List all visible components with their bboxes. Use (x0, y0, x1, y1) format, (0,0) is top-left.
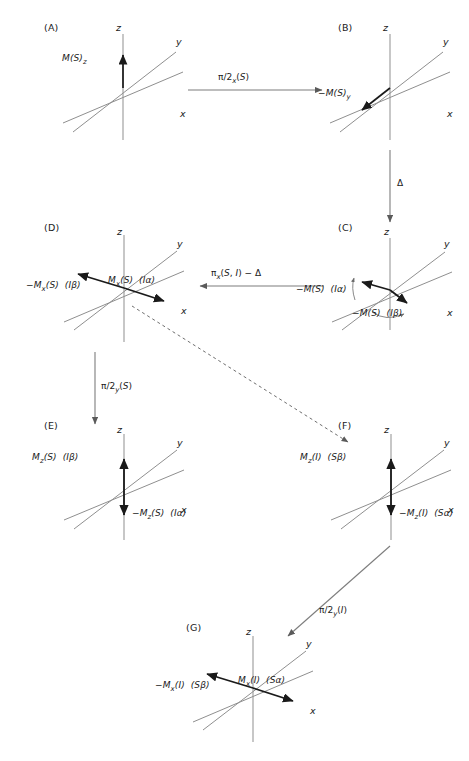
panel-A-axis-x: x (180, 108, 186, 119)
panel-B-axes (330, 34, 450, 140)
panel-label-G: (G) (186, 622, 201, 633)
panel-F-vector-label-beta: Mz(I) (Sβ) (300, 452, 347, 465)
panel-C-axis-x: x (447, 307, 453, 318)
panel-A-axis-z: z (116, 22, 121, 33)
transition-label-f-to-g: π/2y(I) (319, 605, 347, 618)
panel-G-vector-label-alpha: Mx(I) (Sα) (238, 675, 285, 688)
panel-F-vector-label-alpha: −Mz(I) (Sα) (399, 508, 453, 521)
panel-G-axis-y: y (306, 638, 312, 649)
panel-B-vector-label-minusMy: −M(S)y (318, 88, 351, 101)
transition-label-b-to-c: Δ (397, 178, 403, 188)
panel-F-axis-z: z (384, 424, 389, 435)
panel-label-A: (A) (44, 22, 59, 33)
transition-label-d-to-e: π/2y(S) (101, 381, 132, 394)
panel-B-axis-y: y (443, 36, 449, 47)
panel-F-axis-y: y (444, 437, 450, 448)
panel-D-axis-x: x (181, 305, 187, 316)
panel-D-vector-label-beta: −Mx(S) (Iβ) (26, 280, 81, 293)
panel-A-vector-label-Mz: M(S)z (62, 53, 87, 66)
panel-label-E: (E) (44, 420, 58, 431)
panel-label-F: (F) (338, 420, 351, 431)
panel-B-axis-x: x (447, 108, 453, 119)
transition-label-c-to-d: πx(S, I) − Δ (211, 268, 261, 281)
panel-B-axis-z: z (383, 22, 388, 33)
panel-E-axis-y: y (177, 437, 183, 448)
panel-C-axis-z: z (384, 226, 389, 237)
panel-label-D: (D) (44, 222, 59, 233)
panel-E-axis-z: z (117, 424, 122, 435)
panel-label-C: (C) (338, 222, 353, 233)
transition-label-a-to-b: π/2x(S) (218, 72, 249, 85)
panel-A-axis-y: y (176, 36, 182, 47)
panel-C-axis-y: y (444, 238, 450, 249)
panel-G-axis-z: z (246, 626, 251, 637)
figure-canvas: (A) z y x M(S)z (B) z y x −M(S)y (C) z y… (0, 0, 469, 761)
panel-C-rotation-arrow-left (353, 278, 355, 300)
panel-D-vector-alpha (124, 288, 164, 301)
transition-arrow-f-to-g (288, 546, 390, 636)
panel-C-vector-label-alpha: −M(S) (Iα) (296, 284, 347, 294)
panel-C-vector-label-beta: −M(S) (Iβ) (352, 308, 402, 318)
panel-C-vector-alpha (362, 282, 390, 290)
panel-G-axes (193, 636, 313, 742)
panel-G-vector-label-beta: −Mx(I) (Sβ) (155, 680, 210, 693)
transition-arrow-d-to-f (132, 306, 348, 442)
panel-D-axis-y: y (177, 238, 183, 249)
panel-E-vector-label-alpha: −Mz(S) (Iα) (132, 508, 186, 521)
panel-E-vector-label-beta: Mz(S) (Iβ) (32, 452, 79, 465)
panel-G-axis-x: x (310, 705, 316, 716)
panel-G-vector-alpha (253, 688, 293, 701)
panel-D-axis-z: z (117, 226, 122, 237)
panel-label-B: (B) (338, 22, 353, 33)
diagram-vector-layer (0, 0, 469, 761)
panel-D-vector-label-alpha: Mx(S) (Iα) (108, 275, 155, 288)
